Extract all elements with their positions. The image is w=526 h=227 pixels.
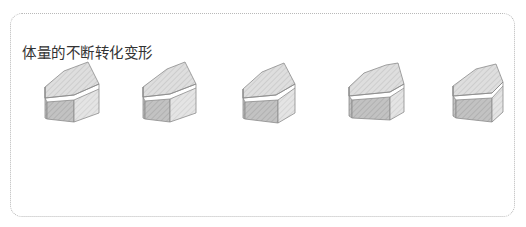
block-variation-5 (452, 60, 514, 126)
extruded-block-icon (142, 60, 198, 126)
extruded-block-icon (348, 60, 410, 126)
block-variation-3 (242, 60, 298, 126)
block-variation-1 (44, 60, 100, 126)
panel-title: 体量的不断转化变形 (22, 41, 153, 62)
extruded-block-icon (242, 60, 298, 126)
block-variation-2 (142, 60, 198, 126)
extruded-block-icon (452, 60, 514, 126)
extruded-block-icon (44, 60, 100, 126)
block-variation-4 (348, 60, 410, 126)
